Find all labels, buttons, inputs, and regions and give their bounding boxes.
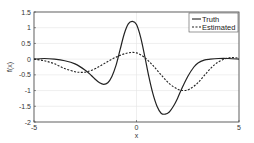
y-tick-label: 1 [27,24,31,31]
x-tick-label: 5 [237,124,241,131]
y-tick-label: -1 [25,87,31,94]
x-tick-label: 0 [135,124,139,131]
y-tick-label: 0 [27,56,31,63]
y-tick-label: 0.5 [21,40,31,47]
y-tick-label: 1.5 [21,9,31,16]
x-axis-label: x [135,132,139,139]
y-tick-label: -1.5 [19,103,31,110]
legend-label-estimated: Estimated [202,23,235,32]
x-tick-label: -5 [31,124,37,131]
legend: TruthEstimated [189,13,238,32]
y-axis-label: f(x) [6,62,14,72]
chart: -2-1.5-1-0.500.511.5-505 x f(x) TruthEst… [0,0,254,143]
y-tick-label: -0.5 [19,71,31,78]
